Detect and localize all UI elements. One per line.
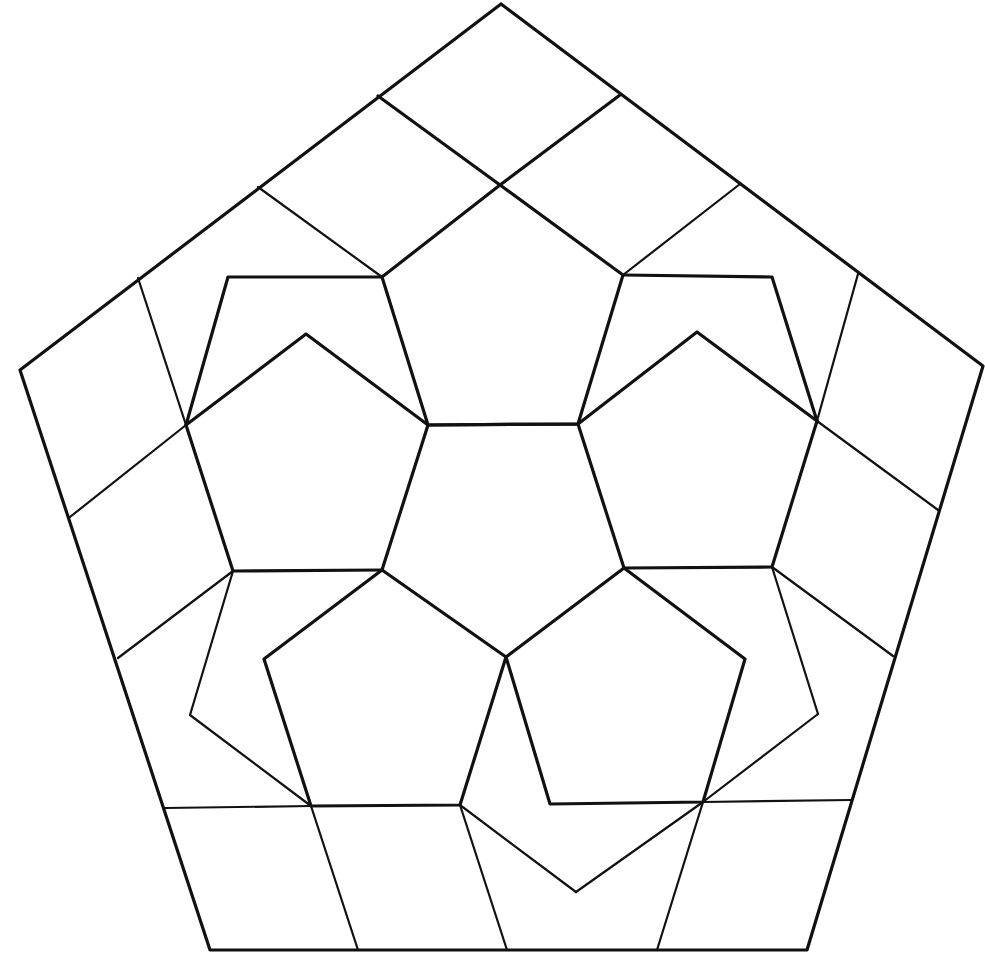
pentagon-tiling-diagram: [0, 0, 985, 975]
pentagon-tiling-figure: [0, 0, 985, 975]
